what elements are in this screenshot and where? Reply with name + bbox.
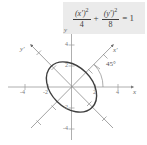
x-tick-label-4: 4	[116, 89, 119, 95]
rotation-angle-label: 45°	[106, 60, 116, 68]
x-tick-label-2: 2	[93, 89, 96, 95]
conic-section-figure: (x')2 4 + (y')2 8 = 1 x y x' y' -4 -2 2 …	[0, 0, 147, 145]
plus-operator: +	[94, 14, 99, 23]
y-prime-axis-label: y'	[20, 45, 25, 53]
y-axis-label: y	[64, 26, 67, 34]
angle-arc	[94, 65, 103, 88]
y-tick-label-4: 4	[65, 41, 68, 47]
x-prime-fraction: (x')2 4	[73, 7, 91, 29]
x-tick-label-neg4: -4	[20, 89, 25, 95]
y-prime-fraction: (y')2 8	[102, 7, 120, 29]
x-axis-label: x	[133, 88, 136, 96]
y-tick-label-neg4: -4	[63, 125, 68, 131]
equals-one: = 1	[122, 14, 134, 23]
x-tick-label-neg2: -2	[43, 89, 48, 95]
y-prime-denominator: 8	[106, 21, 114, 29]
equation-callout: (x')2 4 + (y')2 8 = 1	[63, 2, 145, 34]
y-prime-numerator: (y')2	[102, 7, 120, 18]
x-prime-denominator: 4	[78, 21, 86, 29]
y-tick-label-neg2: -2	[63, 104, 68, 110]
conic-equation: (x')2 4 + (y')2 8 = 1	[72, 7, 136, 29]
x-prime-axis-label: x'	[113, 46, 118, 54]
y-tick-label-2: 2	[65, 62, 68, 68]
x-prime-numerator: (x')2	[73, 7, 91, 18]
